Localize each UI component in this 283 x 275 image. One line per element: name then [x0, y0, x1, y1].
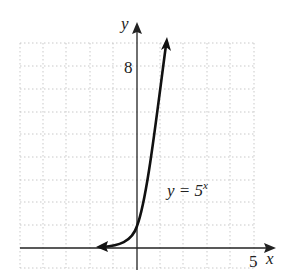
- equation-label: y = 5x: [167, 179, 208, 201]
- y-axis-label: y: [121, 14, 129, 34]
- curve: [103, 45, 166, 247]
- x-axis-label: x: [266, 249, 274, 269]
- axes: [20, 28, 270, 270]
- x-tick-label: 5: [249, 252, 258, 272]
- y-tick-label: 8: [124, 58, 133, 78]
- graph: [0, 0, 283, 275]
